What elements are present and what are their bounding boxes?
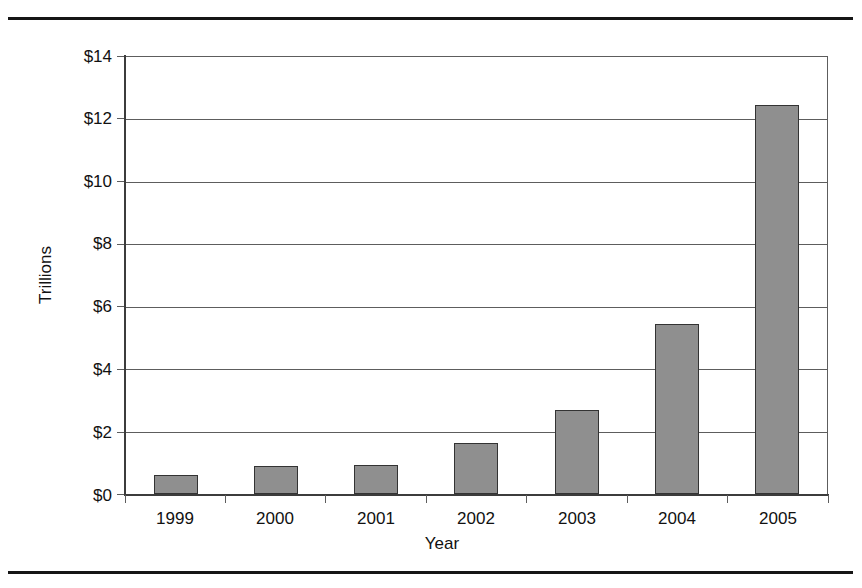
bar-2002[interactable] — [454, 443, 498, 495]
y-tick-label-0: $0 — [0, 487, 112, 504]
y-tick-label-text: $14 — [84, 47, 112, 66]
bar-2005[interactable] — [755, 105, 799, 494]
x-tick-label-2003: 2003 — [527, 509, 627, 529]
y-tick-label-4: $4 — [0, 361, 112, 378]
top-divider-rule — [8, 17, 853, 20]
y-tick-label-text: $10 — [84, 172, 112, 191]
x-tick-mark-0 — [125, 495, 126, 503]
bar-slot-2005 — [727, 57, 827, 494]
bar-slot-2000 — [226, 57, 326, 494]
x-axis-line — [124, 494, 829, 496]
y-tick-label-6: $6 — [0, 298, 112, 315]
y-tick-label-10: $10 — [0, 173, 112, 190]
x-tick-label-2001: 2001 — [326, 509, 426, 529]
y-tick-label-text: $2 — [93, 423, 112, 442]
bottom-divider-rule — [8, 571, 853, 574]
bar-1999[interactable] — [154, 475, 198, 494]
y-axis-line — [124, 55, 126, 496]
x-tick-mark-5 — [627, 495, 628, 503]
bar-2001[interactable] — [354, 465, 398, 494]
y-tick-label-text: $6 — [93, 297, 112, 316]
figure: $14 $12 $10 $8 $6 $4 $2 $0 — [0, 0, 862, 588]
bar-2000[interactable] — [254, 466, 298, 494]
x-tick-mark-3 — [426, 495, 427, 503]
bar-2003[interactable] — [555, 410, 599, 494]
x-tick-label-2004: 2004 — [627, 509, 727, 529]
y-tick-label-text: $0 — [93, 486, 112, 505]
bar-slot-2001 — [326, 57, 426, 494]
x-axis-title-text: Year — [425, 534, 459, 554]
y-tick-label-8: $8 — [0, 235, 112, 252]
x-tick-mark-4 — [526, 495, 527, 503]
x-tick-label-1999: 1999 — [125, 509, 225, 529]
y-tick-label-text: $12 — [84, 109, 112, 128]
bar-2004[interactable] — [655, 324, 699, 494]
x-axis-title: Year — [0, 534, 862, 554]
y-tick-label-2: $2 — [0, 424, 112, 441]
x-tick-mark-1 — [225, 495, 226, 503]
x-tick-mark-6 — [727, 495, 728, 503]
x-tick-label-2005: 2005 — [728, 509, 828, 529]
plot-area — [125, 56, 828, 495]
x-tick-label-2002: 2002 — [426, 509, 526, 529]
bar-group — [126, 57, 827, 494]
bar-slot-2002 — [426, 57, 526, 494]
bar-slot-1999 — [126, 57, 226, 494]
y-tick-label-text: $8 — [93, 234, 112, 253]
x-tick-mark-2 — [325, 495, 326, 503]
x-tick-mark-7 — [828, 495, 829, 503]
bar-slot-2004 — [627, 57, 727, 494]
x-tick-label-2000: 2000 — [225, 509, 325, 529]
bar-slot-2003 — [527, 57, 627, 494]
y-axis-title: Trillions — [36, 200, 56, 350]
y-tick-label-text: $4 — [93, 360, 112, 379]
y-tick-label-12: $12 — [0, 110, 112, 127]
y-tick-label-14: $14 — [0, 48, 112, 65]
